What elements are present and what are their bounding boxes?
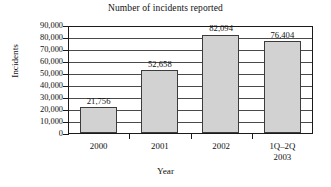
x-axis-tick-mark	[129, 134, 130, 139]
y-axis-tick-label: 70,000	[7, 46, 63, 54]
x-axis-tick-label: 2001	[151, 141, 169, 152]
y-axis-tick-mark	[63, 134, 69, 135]
y-axis-tick-label: 0	[7, 130, 63, 138]
plot-area	[68, 26, 313, 134]
bar-chart-figure: Number of incidents reported Incidents 9…	[0, 0, 331, 187]
y-axis-tick-label: 40,000	[7, 82, 63, 90]
bar	[141, 70, 178, 133]
x-axis-tick-label: 2002	[212, 141, 230, 152]
y-axis-tick-label: 60,000	[7, 58, 63, 66]
x-axis-tick-label: 2000	[90, 141, 108, 152]
bar-value-label: 76,404	[271, 31, 295, 40]
bar-value-label: 52,658	[148, 60, 172, 69]
x-axis-tick-label-line: 2002	[212, 141, 230, 151]
bar	[202, 35, 239, 134]
x-axis-tick-label-line: 2001	[151, 141, 169, 151]
x-axis-tick-label-line: 2000	[90, 141, 108, 151]
y-axis-tick-label: 50,000	[7, 70, 63, 78]
y-axis-tick-label: 20,000	[7, 106, 63, 114]
x-axis-tick-label-line: 1Q–2Q	[269, 141, 295, 151]
x-axis-tick-mark	[252, 134, 253, 139]
bar	[264, 41, 301, 133]
chart-title: Number of incidents reported	[0, 3, 331, 13]
x-axis-tick-label: 1Q–2Q2003	[269, 141, 295, 162]
x-axis-title: Year	[0, 166, 331, 176]
bar-value-label: 82,094	[209, 24, 233, 33]
x-axis-tick-label-line: 2003	[269, 152, 295, 163]
x-axis-tick-mark	[191, 134, 192, 139]
bar-value-label: 21,756	[87, 97, 111, 106]
y-axis-tick-label: 80,000	[7, 34, 63, 42]
bar	[80, 107, 117, 133]
y-axis-tick-label: 10,000	[7, 118, 63, 126]
y-axis-tick-label: 90,000	[7, 22, 63, 30]
y-axis-tick-label: 30,000	[7, 94, 63, 102]
